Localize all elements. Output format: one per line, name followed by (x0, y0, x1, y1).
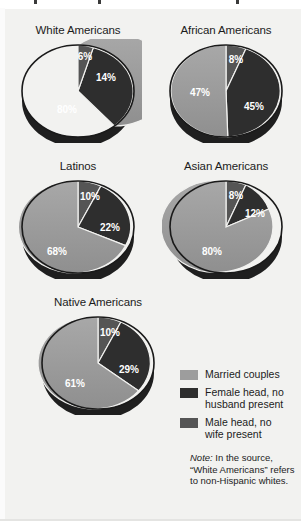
chart-title-white-americans: White Americans (8, 24, 148, 36)
slice-label-male-head: 6% (78, 51, 93, 62)
pie-svg-white-americans: 80% 14% 6% (14, 39, 142, 143)
crop-marks (0, 0, 301, 5)
pie-chart-native-americans: Native Americans 61% 29% 10% (28, 296, 168, 415)
legend-label-female-head-line2: husband present (205, 398, 283, 410)
pie-svg-native-americans: 61% 29% 10% (34, 311, 162, 415)
legend-label-male-head-line2: wife present (205, 428, 262, 440)
chart-title-native-americans: Native Americans (28, 296, 168, 308)
slice-label-male-head: 8% (229, 190, 244, 201)
slice-label-married-couples: 80% (57, 104, 77, 115)
chart-title-latinos: Latinos (8, 160, 148, 172)
legend-label-female-head: Female head, no husband present (205, 386, 284, 410)
slice-label-female-head: 14% (96, 72, 116, 83)
legend: Married couples Female head, no husband … (180, 368, 298, 446)
chart-title-african-americans: African Americans (156, 24, 296, 36)
pie-graphic-african-americans: 47% 45% 8% (162, 39, 290, 143)
legend-label-married-couples: Married couples (205, 368, 280, 380)
slice-label-female-head: 12% (245, 208, 265, 219)
pie-graphic-white-americans: 80% 14% 6% (14, 39, 142, 143)
legend-label-male-head: Male head, no wife present (205, 416, 272, 440)
slice-label-male-head: 10% (80, 191, 100, 202)
pie-graphic-latinos: 68% 22% 10% (14, 175, 142, 279)
pie-svg-latinos: 68% 22% 10% (14, 175, 142, 279)
slice-label-male-head: 10% (100, 327, 120, 338)
slice-label-married-couples: 80% (202, 246, 222, 257)
legend-item-married-couples: Married couples (180, 368, 298, 380)
slice-label-female-head: 29% (119, 364, 139, 375)
pie-svg-african-americans: 47% 45% 8% (162, 39, 290, 143)
slice-label-female-head: 22% (100, 222, 120, 233)
crop-tick (236, 0, 239, 4)
figure-note: Note: In the source, “White Americans” r… (190, 452, 298, 487)
legend-label-male-head-line1: Male head, no (205, 416, 272, 428)
legend-item-male-head: Male head, no wife present (180, 416, 298, 440)
legend-item-female-head: Female head, no husband present (180, 386, 298, 410)
legend-label-female-head-line1: Female head, no (205, 386, 284, 398)
figure-root: White Americans 80% 14% 6% (0, 0, 301, 521)
pie-svg-asian-americans: 80% 12% 8% (162, 175, 290, 279)
slice-label-married-couples: 47% (190, 87, 210, 98)
legend-swatch-female-head (180, 388, 198, 398)
legend-swatch-married-couples (180, 370, 198, 380)
crop-tick (34, 0, 37, 4)
legend-swatch-male-head (180, 418, 198, 428)
pie-graphic-native-americans: 61% 29% 10% (34, 311, 162, 415)
slice-label-married-couples: 61% (65, 378, 85, 389)
pie-graphic-asian-americans: 80% 12% 8% (162, 175, 290, 279)
pie-chart-latinos: Latinos 68% 22% 10% (8, 160, 148, 279)
slice-label-female-head: 45% (244, 101, 264, 112)
pie-chart-asian-americans: Asian Americans 80% 12% 8% (156, 160, 296, 279)
slice-label-married-couples: 68% (47, 246, 67, 257)
pie-chart-african-americans: African Americans 47% 45% 8% (156, 24, 296, 143)
pie-chart-white-americans: White Americans 80% 14% 6% (8, 24, 148, 143)
note-label: Note: (190, 452, 213, 463)
chart-title-asian-americans: Asian Americans (156, 160, 296, 172)
crop-tick (98, 0, 101, 4)
slice-label-male-head: 8% (229, 54, 244, 65)
panel-left-edge (0, 8, 5, 521)
